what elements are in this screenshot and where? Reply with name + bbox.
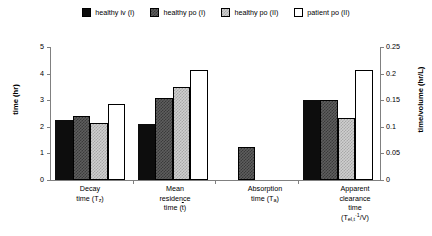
category-label-mean-residence-time: Meanresidencetime (t) [125,184,225,213]
legend-item-healthy-iv-i: healthy iv (I) [82,8,134,17]
y-axis-right-tick [381,100,384,101]
y-axis-right-tick [381,47,384,48]
legend-swatch-dark-check [150,8,159,17]
y-axis-right-tick [381,74,384,75]
legend-swatch-solid-black [82,8,91,17]
legend-label: patient po (II) [307,8,349,17]
category-label-absorption-time: Absorptiontime (Ta) [215,184,315,204]
legend-item-patient-po-ii: patient po (II) [294,8,349,17]
bar-chart: healthy iv (I) healthy po (I) healthy po… [0,0,432,236]
category-label-apparent-clearance-time: Apparentclearancetime(Tel,t·1/V) [305,184,405,223]
y-axis-right-title: time/volume (hr/L) [416,35,425,165]
y-axis-right-tick [381,180,384,181]
y-axis-right-tick-label: 0.1 [386,123,408,131]
bar-healthy-po-i-group-3 [320,100,338,180]
bar-healthy-po-ii-group-1 [173,87,191,180]
y-axis-right-tick-label: 0.25 [386,43,408,51]
legend-item-healthy-po-i: healthy po (I) [150,8,205,17]
bar-healthy-po-ii-group-0 [90,123,108,180]
y-axis-left-tick-label: 1 [26,149,44,157]
y-axis-left-title: time (hr) [11,45,20,155]
y-axis-right-tick-label: 0.15 [386,96,408,104]
y-axis-left-tick-label: 0 [26,176,44,184]
y-axis-right-tick-label: 0.05 [386,149,408,157]
bar-healthy-iv-i-group-1 [138,124,156,180]
bar-healthy-po-i-group-1 [155,98,173,180]
plot-area [50,47,380,180]
bar-healthy-po-ii-group-3 [338,118,356,181]
y-axis-right-tick [381,127,384,128]
legend-label: healthy po (II) [234,8,278,17]
y-axis-left-tick [47,180,50,181]
bar-healthy-po-i-group-2 [238,147,256,180]
y-axis-right-tick-label: 0 [386,176,408,184]
chart-legend: healthy iv (I) healthy po (I) healthy po… [0,5,432,19]
legend-swatch-light-check [221,8,230,17]
y-axis-left-tick-label: 4 [26,70,44,78]
bar-healthy-po-i-group-0 [73,116,91,180]
bar-patient-po-ii-group-3 [355,70,373,180]
bar-patient-po-ii-group-0 [108,104,126,180]
y-axis-left-tick-label: 5 [26,43,44,51]
legend-item-healthy-po-ii: healthy po (II) [221,8,278,17]
legend-swatch-white [294,8,303,17]
y-axis-right-line [380,47,381,180]
y-axis-right-tick-label: 0.2 [386,70,408,78]
y-axis-left-tick-label: 3 [26,96,44,104]
bar-patient-po-ii-group-1 [190,70,208,180]
legend-label: healthy po (I) [163,8,205,17]
y-axis-right-tick [381,153,384,154]
bar-healthy-iv-i-group-0 [55,120,73,180]
y-axis-left-tick-label: 2 [26,123,44,131]
legend-label: healthy iv (I) [95,8,134,17]
bar-healthy-iv-i-group-3 [303,100,321,180]
